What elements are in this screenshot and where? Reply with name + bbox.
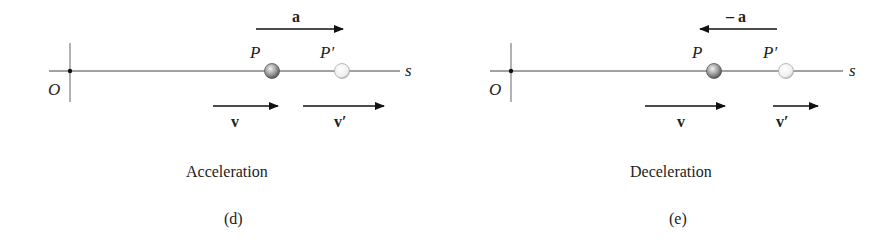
- s-axis-label: s: [405, 61, 412, 81]
- particle-p-prime: [779, 64, 794, 79]
- particle-p: [707, 64, 722, 79]
- deceleration-label: – a: [726, 8, 746, 26]
- point-p-label: P: [692, 43, 702, 63]
- origin-label: O: [48, 80, 60, 100]
- panel-d: [49, 29, 400, 106]
- origin-label: O: [489, 80, 501, 100]
- panel-e: [490, 29, 843, 106]
- origin-dot: [68, 69, 72, 73]
- sublabel-d: (d): [224, 210, 243, 228]
- particle-p-prime: [335, 64, 350, 79]
- point-p-prime-label: P′: [763, 43, 777, 63]
- acceleration-label: a: [292, 8, 300, 26]
- particle-p: [265, 64, 280, 79]
- sublabel-e: (e): [669, 210, 687, 228]
- point-p-label: P: [250, 43, 260, 63]
- velocity-prime-label: v′: [776, 113, 789, 131]
- caption-acceleration: Acceleration: [186, 163, 268, 181]
- caption-deceleration: Deceleration: [630, 163, 712, 181]
- origin-dot: [509, 69, 513, 73]
- point-p-prime-label: P′: [320, 43, 334, 63]
- velocity-prime-label: v′: [334, 113, 347, 131]
- s-axis-label: s: [849, 61, 856, 81]
- velocity-label: v: [677, 113, 685, 131]
- velocity-label: v: [231, 113, 239, 131]
- diagram-canvas: [0, 0, 890, 242]
